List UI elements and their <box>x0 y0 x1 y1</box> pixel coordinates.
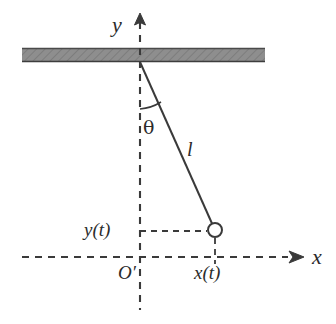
origin-label: O′ <box>118 263 136 282</box>
pendulum-bob <box>208 223 222 237</box>
rod-length-label: l <box>187 139 193 159</box>
angle-label: θ <box>143 118 154 137</box>
angle-arc <box>140 102 161 109</box>
x-axis-label: x <box>312 246 322 268</box>
y-axis-label: y <box>112 14 122 36</box>
diagram-canvas <box>0 0 336 324</box>
pendulum-rod <box>140 62 214 228</box>
x-coordinate-label: x(t) <box>194 263 220 282</box>
y-coordinate-label: y(t) <box>84 220 110 239</box>
ceiling-hatch-fill <box>22 48 265 62</box>
x-axis <box>22 251 304 263</box>
pendulum-diagram: y x θ l y(t) x(t) O′ <box>0 0 336 324</box>
ceiling-support <box>22 48 265 62</box>
x-axis-arrowhead-icon <box>289 251 304 263</box>
